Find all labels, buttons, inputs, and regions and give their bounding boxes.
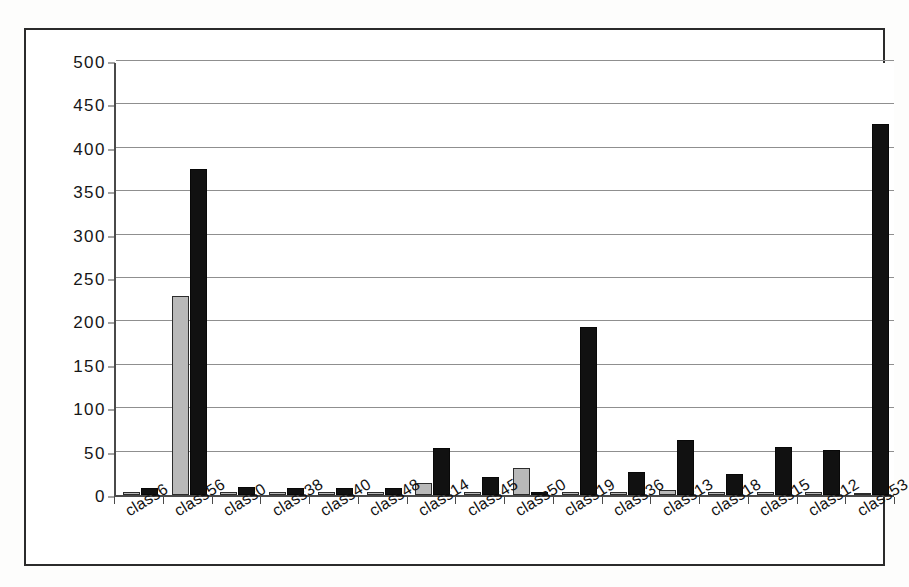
bar-group [123, 63, 158, 495]
bar [580, 327, 597, 495]
x-axis-labels: class6class56class0class38class40class48… [114, 497, 904, 567]
bar-group [318, 63, 353, 495]
chart-frame: 050100150200250300350400450500 class6cla… [24, 28, 885, 566]
bar-group [854, 63, 889, 495]
bar-group [610, 63, 645, 495]
y-tick-label-250: 250 [73, 270, 106, 290]
bar-group [562, 63, 597, 495]
y-tick-label-150: 150 [73, 357, 106, 377]
y-tick-label-300: 300 [73, 227, 106, 247]
y-tick-label-350: 350 [73, 183, 106, 203]
y-tick-label-400: 400 [73, 140, 106, 160]
y-tick-label-0: 0 [95, 487, 106, 507]
bar [190, 169, 207, 495]
y-tick-label-500: 500 [73, 53, 106, 73]
plot-area [114, 63, 894, 497]
y-tick-label-50: 50 [84, 444, 106, 464]
scanned-page: 050100150200250300350400450500 class6cla… [0, 0, 909, 587]
bar-group [415, 63, 450, 495]
y-tick-label-100: 100 [73, 400, 106, 420]
bar-group [269, 63, 304, 495]
y-axis-labels: 050100150200250300350400450500 [54, 63, 106, 497]
bar-group [659, 63, 694, 495]
gridline-500 [116, 60, 894, 61]
bar-group [757, 63, 792, 495]
y-tick-label-200: 200 [73, 313, 106, 333]
bar [872, 124, 889, 496]
bar [172, 296, 189, 495]
bar-group [464, 63, 499, 495]
bar-group [513, 63, 548, 495]
bar-group [220, 63, 255, 495]
bar-group [172, 63, 207, 495]
bar-group [708, 63, 743, 495]
bar-group [367, 63, 402, 495]
y-tick-label-450: 450 [73, 96, 106, 116]
bar-group [805, 63, 840, 495]
